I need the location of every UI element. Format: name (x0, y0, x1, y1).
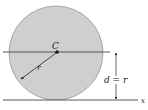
center-label: C (52, 41, 59, 51)
diagram-canvas: C r d = r x (0, 0, 148, 110)
distance-label: d = r (104, 75, 128, 85)
axis-label: x (141, 97, 145, 105)
